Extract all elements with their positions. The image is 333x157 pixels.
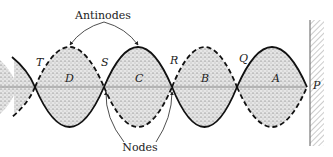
loop-label-d: D — [64, 72, 74, 85]
nodes-label: Nodes — [122, 141, 158, 154]
loop-label-b: B — [200, 72, 209, 85]
node-label-p: P — [312, 79, 321, 92]
node-label-r: R — [169, 54, 178, 67]
node-label-s: S — [101, 56, 109, 69]
loop-label-c: C — [135, 72, 144, 85]
node-label-t: T — [36, 56, 45, 69]
loop-label-a: A — [271, 72, 280, 85]
standing-wave-figure: Antinodes Nodes T S R Q P D C B A — [0, 0, 333, 157]
antinodes-label: Antinodes — [74, 9, 131, 22]
node-label-q: Q — [239, 52, 248, 65]
antinodes-annotation: Antinodes — [70, 9, 138, 45]
